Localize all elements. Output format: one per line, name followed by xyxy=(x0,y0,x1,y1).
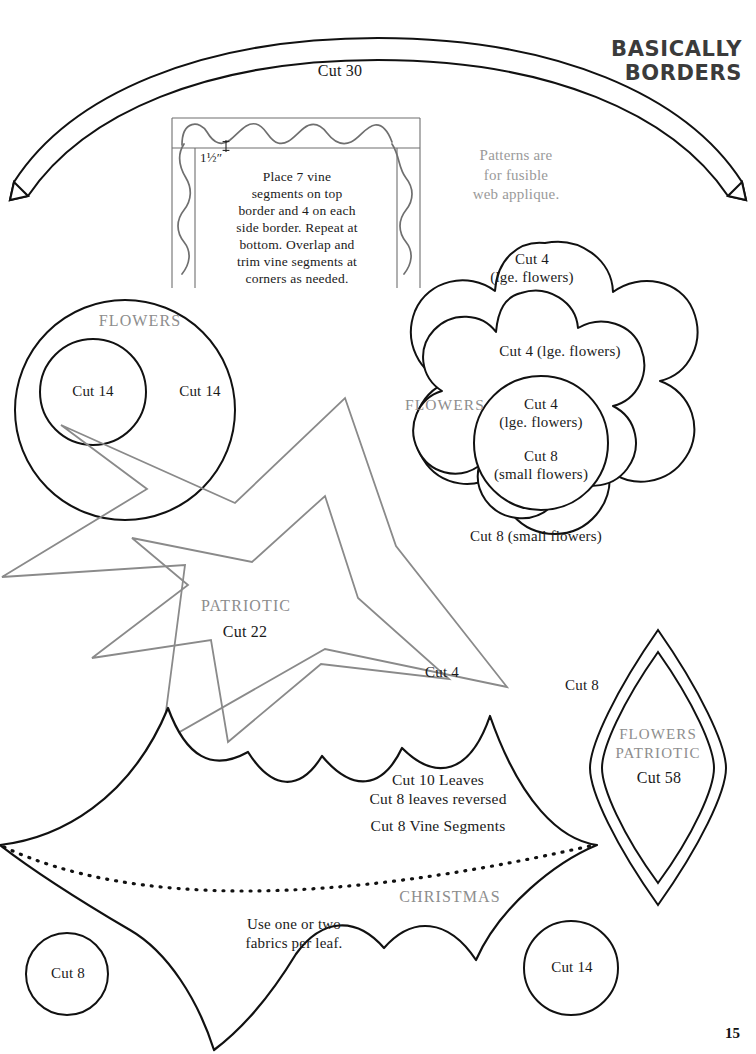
star-inner-label: Cut 22 xyxy=(205,623,285,642)
leaf-count-label: Cut 58 xyxy=(624,769,694,788)
leaf-heading-line-2: PATRIOTIC xyxy=(606,745,710,763)
flower-inner-petal-label: Cut 4 (lge. flowers) xyxy=(460,343,660,361)
circles-group-heading: FLOWERS xyxy=(75,312,205,331)
brand-title: BASICALLY BORDERS xyxy=(611,38,742,86)
star-outer-label: Cut 4 xyxy=(407,664,477,682)
circles-group-shape xyxy=(15,300,235,520)
circles-inner-label: Cut 14 xyxy=(53,383,133,401)
pattern-artwork xyxy=(0,0,756,1054)
flower-center-label-bottom: Cut 8 (small flowers) xyxy=(478,448,604,483)
leaf-heading-line-1: FLOWERS xyxy=(606,726,710,744)
brand-line-2: BORDERS xyxy=(611,62,742,86)
page-number: 15 xyxy=(725,1025,740,1042)
small-circle-left-label: Cut 8 xyxy=(37,965,99,983)
holly-label-line-3: Cut 8 Vine Segments xyxy=(330,817,546,835)
vine-instructions: Place 7 vine segments on top border and … xyxy=(232,168,362,287)
christmas-heading: CHRISTMAS xyxy=(386,888,514,907)
arc-border-label: Cut 30 xyxy=(280,62,400,81)
circles-outer-label: Cut 14 xyxy=(160,383,240,401)
leaf-shape xyxy=(590,630,726,905)
holly-fabric-note: Use one or two fabrics per leaf. xyxy=(228,915,360,953)
leaf-count-side-label: Cut 8 xyxy=(550,677,614,695)
star-group-heading: PATRIOTIC xyxy=(188,597,304,616)
vine-measure-label: 1½″ xyxy=(200,150,260,165)
flower-small-label: Cut 8 (small flowers) xyxy=(448,528,624,546)
small-circle-right-label: Cut 14 xyxy=(538,959,606,977)
fusible-web-note: Patterns are for fusible web applique. xyxy=(450,146,582,205)
flower-center-label-top: Cut 4 (lge. flowers) xyxy=(481,396,601,431)
holly-label-line-1: Cut 10 Leaves xyxy=(348,771,528,789)
pattern-page: BASICALLY BORDERS Cut 30 1½″ Place 7 vin… xyxy=(0,0,756,1054)
flower-outer-petal-label: Cut 4 (lge. flowers) xyxy=(462,251,602,286)
star-inner-shape xyxy=(92,496,449,742)
holly-label-line-2: Cut 8 leaves reversed xyxy=(328,790,548,808)
brand-line-1: BASICALLY xyxy=(611,38,742,62)
